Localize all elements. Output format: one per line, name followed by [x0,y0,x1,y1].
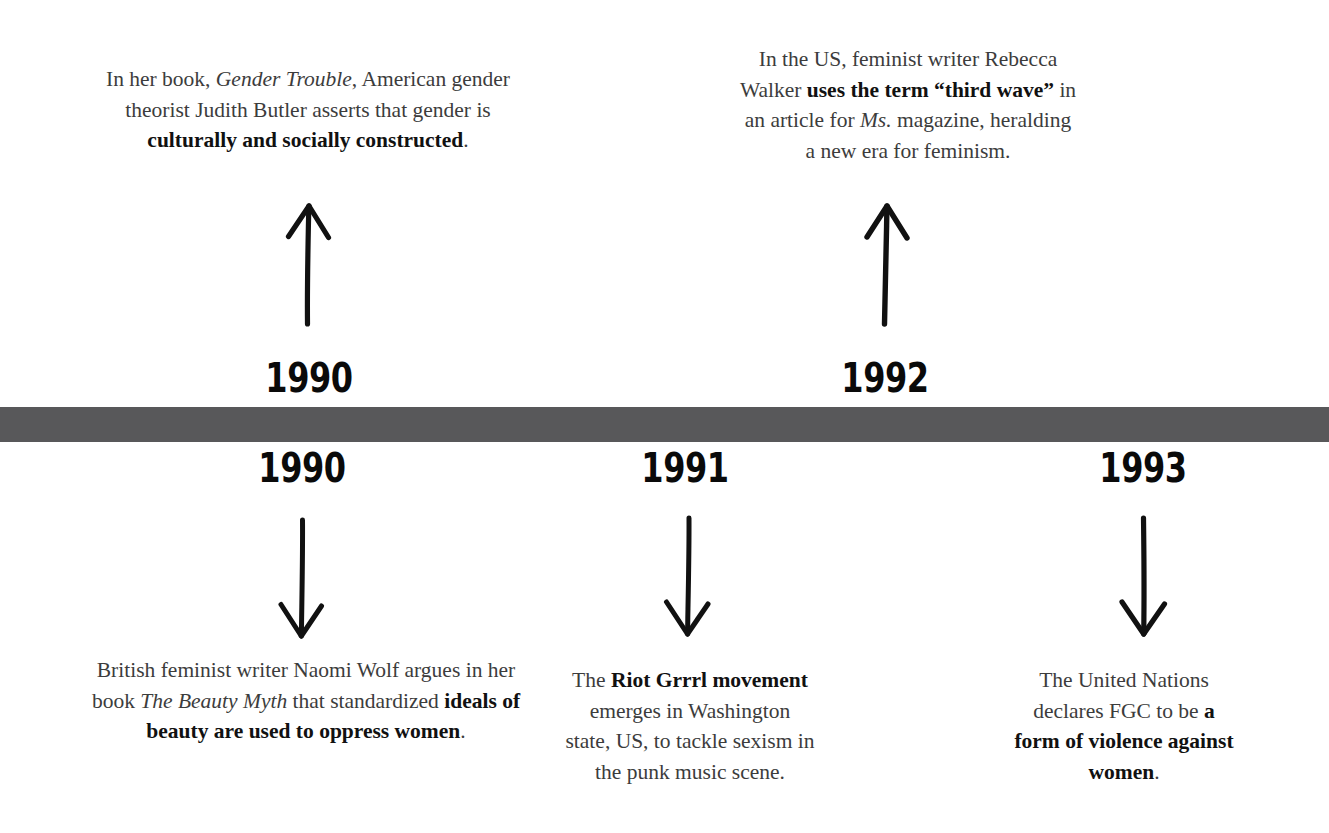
up-arrow-icon-1992 [846,196,926,326]
timeline-bar [0,407,1329,442]
event-description-1992-above: In the US, feminist writer Rebecca Walke… [738,44,1078,166]
event-description-1990-above: In her book, Gender Trouble, American ge… [88,64,528,156]
year-label-1990-below: 1990 [238,446,366,490]
down-arrow-icon-1993 [1104,514,1184,640]
year-label-1992-above: 1992 [821,356,949,400]
year-label-1990-above: 1990 [245,356,373,400]
event-description-1993-below: The United Nations declares FGC to be a … [1008,665,1240,787]
year-label-1991-below: 1991 [621,446,749,490]
event-description-1990-below: British feminist writer Naomi Wolf argue… [86,655,526,747]
down-arrow-icon-1990 [262,516,342,642]
down-arrow-icon-1991 [648,514,728,640]
event-description-1991-below: The Riot Grrrl movement emerges in Washi… [565,665,815,787]
year-label-1993-below: 1993 [1079,446,1207,490]
up-arrow-icon-1990 [268,196,348,326]
